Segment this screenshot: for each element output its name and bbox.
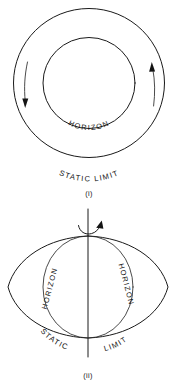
svg-text:STATIC: STATIC [39,327,70,352]
horizon-label-text: HORIZON [67,118,111,132]
static-label-left: STATIC [38,327,72,352]
svg-text:HORIZON: HORIZON [67,118,111,132]
left-rotation-arrow [22,62,28,108]
figure-ii-caption: (ii) [83,371,93,380]
static-label-left-text: STATIC [39,327,70,352]
static-limit-circle [14,9,165,158]
limit-label-right-text: LIMIT [103,334,129,353]
spin-axis-arrow [79,220,104,234]
horizon-circle [43,38,135,129]
right-rotation-arrow [149,62,155,106]
svg-text:STATIC LIMIT: STATIC LIMIT [58,168,120,183]
figure-i-static-limit-label: STATIC LIMIT [27,146,151,183]
figure-root: HORIZON STATIC LIMIT (i) HORIZON HORIZ [0,0,179,384]
ergosphere-diagram: HORIZON STATIC LIMIT (i) HORIZON HORIZ [0,0,179,384]
figure-i-caption: (i) [85,189,93,198]
figure-i-group: HORIZON STATIC LIMIT (i) [14,9,165,199]
static-limit-label-text: STATIC LIMIT [58,168,120,183]
svg-text:LIMIT: LIMIT [103,334,129,353]
figure-ii-group: HORIZON HORIZON STATIC LIMIT (ii) [8,209,168,380]
